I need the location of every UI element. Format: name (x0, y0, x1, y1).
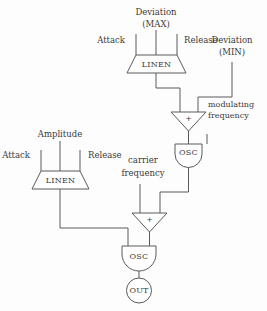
label-carrier-release: Release (88, 150, 122, 160)
label-deviation-min-line1: Deviation (211, 35, 253, 45)
label-carrier-amplitude: Amplitude (37, 129, 82, 139)
label-modulator-attack: Attack (96, 35, 126, 45)
carrier-osc-label: OSC (130, 252, 149, 261)
label-deviation-max-line2: (MAX) (142, 19, 170, 29)
modulator-mixer-plus-label: + (185, 114, 192, 123)
label-carrier-attack: Attack (1, 150, 31, 160)
label-modulating-frequency-line2: frequency (208, 111, 249, 120)
carrier-mixer-plus-label: + (146, 215, 153, 224)
modulator-osc-label: OSC (179, 148, 198, 157)
label-carrier-frequency-line1: carrier (128, 155, 159, 165)
label-deviation-min-line2: (MIN) (219, 47, 245, 57)
signal-flow-canvas: Deviation (MAX) Attack Release Deviation… (0, 0, 267, 311)
carrier-linen-label: LINEN (46, 176, 75, 185)
label-deviation-max-line1: Deviation (135, 7, 177, 17)
label-carrier-frequency-line2: frequency (121, 168, 164, 178)
label-modulating-frequency-line1: modulating (208, 100, 254, 109)
fm-synthesis-diagram: Deviation (MAX) Attack Release Deviation… (0, 0, 267, 311)
wire-carrier-envelope-to-osc (60, 189, 128, 246)
output-block-label: OUT (129, 286, 149, 295)
wire-modulator-envelope-to-mixer (156, 73, 180, 112)
modulator-linen-label: LINEN (142, 60, 171, 69)
